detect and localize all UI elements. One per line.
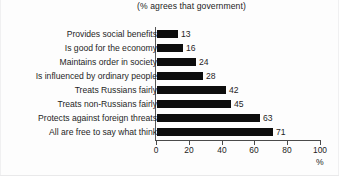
x-tick-label: 60 bbox=[249, 145, 258, 155]
bar bbox=[157, 114, 260, 122]
x-tick-label: 80 bbox=[282, 145, 291, 155]
category-label: Treats Russians fairly bbox=[75, 85, 157, 96]
chart-figure: (% agrees that government) Provides soci… bbox=[0, 0, 339, 176]
bar-row: Provides social benefits13 bbox=[0, 28, 339, 42]
x-tick-label: 40 bbox=[217, 145, 226, 155]
bar-value-label: 42 bbox=[229, 85, 239, 96]
bar-value-label: 13 bbox=[181, 29, 191, 40]
bar-row: All are free to say what think71 bbox=[0, 126, 339, 140]
bar-row: Is influenced by ordinary people28 bbox=[0, 70, 339, 84]
bar bbox=[157, 44, 183, 52]
bar-value-label: 71 bbox=[276, 127, 286, 138]
x-tick-label: 0 bbox=[154, 145, 159, 155]
category-label: Is influenced by ordinary people bbox=[36, 71, 157, 82]
category-label: Provides social benefits bbox=[67, 29, 157, 40]
bar-row: Treats Russians fairly42 bbox=[0, 84, 339, 98]
category-label: Maintains order in society bbox=[60, 57, 157, 68]
bar-value-label: 28 bbox=[206, 71, 216, 82]
bar bbox=[157, 72, 203, 80]
x-tick-label: 20 bbox=[184, 145, 193, 155]
bar-value-label: 24 bbox=[199, 57, 209, 68]
bar bbox=[157, 128, 273, 136]
bar bbox=[157, 58, 196, 66]
bar bbox=[157, 30, 178, 38]
category-label: Is good for the economy bbox=[65, 43, 157, 54]
bar-row: Treats non-Russians fairly45 bbox=[0, 98, 339, 112]
category-label: Treats non-Russians fairly bbox=[58, 99, 158, 110]
category-label: Protects against foreign threats bbox=[38, 113, 157, 124]
bar-value-label: 63 bbox=[263, 113, 273, 124]
bar-row: Protects against foreign threats63 bbox=[0, 112, 339, 126]
x-axis-title: % bbox=[316, 157, 324, 167]
bar-value-label: 45 bbox=[234, 99, 244, 110]
plot-area: Provides social benefits13Is good for th… bbox=[0, 0, 339, 176]
bar-row: Maintains order in society24 bbox=[0, 56, 339, 70]
bar-value-label: 16 bbox=[186, 43, 196, 54]
category-label: All are free to say what think bbox=[49, 127, 157, 138]
bar bbox=[157, 100, 231, 108]
x-axis-line bbox=[155, 140, 321, 141]
bar-row: Is good for the economy16 bbox=[0, 42, 339, 56]
x-tick-label: 100 bbox=[313, 145, 327, 155]
bar bbox=[157, 86, 226, 94]
